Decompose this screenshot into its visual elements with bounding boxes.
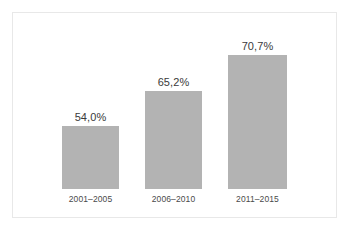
bar-value-label-2006-2010: 65,2% [158,76,190,88]
bar-2006-2010 [145,91,202,189]
bar-2001-2005 [62,126,119,189]
bar-category-label-2006-2010: 2006–2010 [152,194,195,204]
bar-category-label-2001-2005: 2001–2005 [69,194,112,204]
bar-2011-2015 [228,55,287,189]
bar-value-label-2011-2015: 70,7% [242,40,274,52]
bar-category-label-2011-2015: 2011–2015 [236,194,279,204]
bar-chart-figure: 54,0% 2001–2005 65,2% 2006–2010 70,7% 20… [12,12,337,218]
bar-value-label-2001-2005: 54,0% [75,111,107,123]
plot-area: 54,0% 2001–2005 65,2% 2006–2010 70,7% 20… [13,13,336,217]
